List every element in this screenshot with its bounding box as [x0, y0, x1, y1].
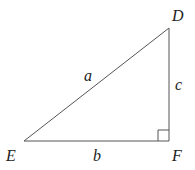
vertex-label-d: D	[171, 7, 184, 24]
side-a-hypotenuse	[24, 28, 169, 141]
triangle	[24, 28, 169, 141]
side-label-c: c	[175, 76, 182, 93]
right-angle-marker	[158, 130, 169, 141]
triangle-diagram: D a c E b F	[0, 0, 195, 170]
side-label-b: b	[93, 147, 101, 164]
vertex-label-e: E	[5, 147, 16, 164]
vertex-label-f: F	[171, 147, 182, 164]
side-label-a: a	[84, 67, 92, 84]
